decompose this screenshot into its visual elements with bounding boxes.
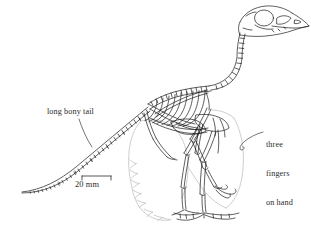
- pelvis: [195, 114, 229, 154]
- label-three-fingers-line-1: three: [266, 140, 293, 150]
- caudal-vertebrae-tail: [22, 104, 197, 193]
- leader-long-bony-tail: [79, 119, 92, 147]
- skull: [239, 6, 310, 36]
- forelimb-far-side: [144, 112, 177, 160]
- leader-three-fingers: [240, 132, 263, 150]
- hindlimb-near: [174, 131, 239, 220]
- label-long-bony-tail: long bony tail: [47, 107, 94, 117]
- scale-bar-label: 20 mm: [75, 180, 99, 190]
- label-three-fingers-on-hand: three fingers on hand: [266, 121, 293, 227]
- dorsal-vertebrae: [148, 86, 211, 109]
- label-three-fingers-line-2: fingers: [266, 169, 293, 179]
- label-three-fingers-line-3: on hand: [266, 198, 293, 208]
- feather-outline: [129, 110, 244, 221]
- fossil-skeleton-figure: long bony tail three fingers on hand 20 …: [0, 0, 311, 231]
- cervical-vertebrae: [209, 33, 245, 90]
- forelimb: [155, 90, 236, 198]
